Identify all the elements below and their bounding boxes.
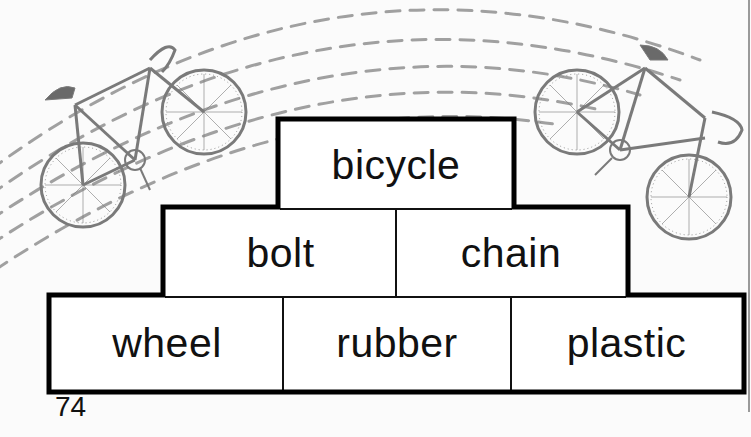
label-bolt: bolt xyxy=(246,230,314,277)
bicycle-icon-left xyxy=(41,47,246,227)
label-plastic: plastic xyxy=(567,320,687,367)
pyramid-bottom-box-2: rubber xyxy=(283,297,511,390)
pyramid-bottom-box-3: plastic xyxy=(511,297,742,390)
label-chain: chain xyxy=(461,230,562,277)
label-rubber: rubber xyxy=(336,320,458,367)
pyramid-middle-box-2: chain xyxy=(396,209,626,297)
pyramid-top-box: bicycle xyxy=(280,121,512,209)
page-number: 74 xyxy=(55,391,86,423)
pyramid-middle-box-1: bolt xyxy=(165,209,396,297)
pyramid-bottom-box-1: wheel xyxy=(51,297,283,390)
label-wheel: wheel xyxy=(112,320,222,367)
label-bicycle: bicycle xyxy=(332,142,461,189)
page-edge-rule xyxy=(748,0,750,412)
